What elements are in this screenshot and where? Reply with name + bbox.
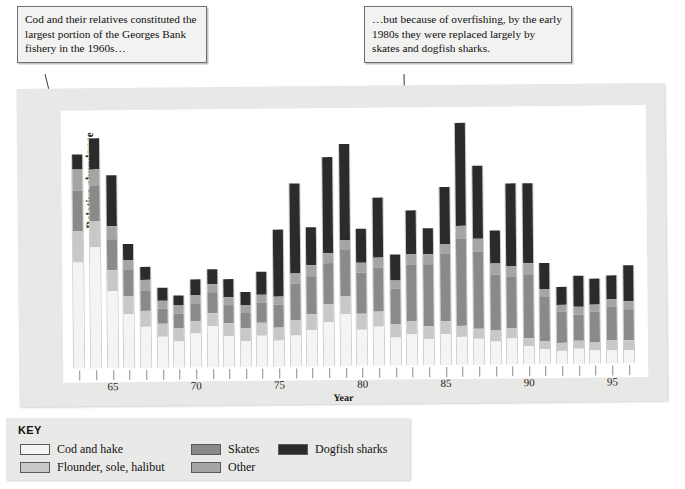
x-tick-75 <box>279 369 280 379</box>
legend-item-flounder-sole-halibut: Flounder, sole, halibut <box>20 460 165 475</box>
bar-segment-dogfish-sharks <box>106 175 116 227</box>
bar-year-93 <box>572 276 585 364</box>
bar-segment-skates <box>73 191 83 232</box>
bar-year-84 <box>422 228 435 365</box>
bar-segment-dogfish-sharks <box>89 139 99 170</box>
bar-segment-cod-and-hake <box>540 349 550 365</box>
x-tick-63 <box>80 371 81 381</box>
bar-segment-cod-and-hake <box>340 314 350 366</box>
bar-segment-dogfish-sharks <box>455 122 466 225</box>
legend-key-box: KEY Cod and hake Flounder, sole, halibut… <box>6 418 410 480</box>
bar-year-78 <box>321 157 335 366</box>
bar-segment-cod-and-hake <box>174 342 184 368</box>
bar-segment-dogfish-sharks <box>606 276 616 299</box>
x-tick-66 <box>129 370 130 380</box>
bar-segment-cod-and-hake <box>574 348 584 364</box>
bar-segment-other <box>623 301 633 309</box>
bar-segment-dogfish-sharks <box>540 263 550 289</box>
bar-segment-flounder-sole-halibut <box>490 331 500 341</box>
bar-segment-flounder-sole-halibut <box>174 329 184 342</box>
legend-item-cod-and-hake: Cod and hake <box>20 442 123 457</box>
bar-segment-flounder-sole-halibut <box>191 321 201 334</box>
callout-right-text: …but because of overfishing, by the earl… <box>372 13 562 54</box>
bar-year-89 <box>505 184 519 365</box>
bar-segment-dogfish-sharks <box>157 288 167 301</box>
bar-segment-other <box>174 306 184 314</box>
bar-segment-dogfish-sharks <box>573 276 583 307</box>
bar-segment-flounder-sole-halibut <box>241 328 251 341</box>
bar-segment-flounder-sole-halibut <box>507 328 517 338</box>
bar-segment-cod-and-hake <box>374 327 384 366</box>
bar-segment-other <box>224 297 234 305</box>
bar-segment-dogfish-sharks <box>522 184 533 264</box>
bar-segment-dogfish-sharks <box>590 278 600 304</box>
bar-segment-skates <box>506 277 516 329</box>
bar-segment-other <box>207 285 217 293</box>
bar-segment-dogfish-sharks <box>240 292 250 305</box>
bar-segment-cod-and-hake <box>207 326 217 367</box>
bar-segment-dogfish-sharks <box>273 230 284 297</box>
x-tick-label-90: 90 <box>524 376 535 388</box>
x-tick-label-65: 65 <box>107 380 118 392</box>
x-tick-95 <box>612 365 613 375</box>
bar-segment-skates <box>274 305 284 328</box>
bar-segment-cod-and-hake <box>141 327 151 368</box>
bar-segment-flounder-sole-halibut <box>590 343 600 351</box>
bar-segment-cod-and-hake <box>440 334 450 365</box>
bar-segment-dogfish-sharks <box>207 269 217 285</box>
bar-segment-cod-and-hake <box>257 336 267 367</box>
bar-segment-dogfish-sharks <box>123 244 133 260</box>
bar-segment-skates <box>540 297 550 341</box>
bar-segment-flounder-sole-halibut <box>624 340 634 350</box>
x-tick-80 <box>362 368 363 378</box>
bar-segment-cod-and-hake <box>274 341 284 367</box>
bar-segment-dogfish-sharks <box>223 279 233 297</box>
legend-swatch-skates <box>191 444 221 455</box>
bar-year-68 <box>156 288 169 368</box>
bar-chart-plot-area <box>69 105 637 368</box>
bar-segment-flounder-sole-halibut <box>324 304 334 322</box>
callout-left: Cod and their relatives constituted the … <box>17 6 207 63</box>
legend-title: KEY <box>18 424 42 436</box>
bar-segment-other <box>573 307 583 315</box>
bar-year-96 <box>622 265 635 363</box>
bar-segment-skates <box>607 307 617 341</box>
bar-segment-flounder-sole-halibut <box>90 221 100 247</box>
legend-item-dogfish-sharks: Dogfish sharks <box>278 442 387 457</box>
bar-segment-cod-and-hake <box>357 330 367 366</box>
bar-year-70 <box>189 280 202 368</box>
bar-segment-dogfish-sharks <box>390 255 400 281</box>
bar-segment-cod-and-hake <box>157 337 167 368</box>
bar-segment-flounder-sole-halibut <box>557 343 567 351</box>
bar-segment-cod-and-hake <box>407 334 417 365</box>
bar-segment-skates <box>123 270 133 296</box>
bar-segment-cod-and-hake <box>457 336 467 364</box>
bar-year-95 <box>605 276 618 364</box>
bar-segment-flounder-sole-halibut <box>457 326 467 336</box>
bar-segment-skates <box>373 268 383 312</box>
bar-segment-dogfish-sharks <box>140 267 150 280</box>
bar-segment-other <box>323 253 333 263</box>
bar-segment-skates <box>523 274 534 339</box>
bar-segment-other <box>506 266 516 276</box>
bar-year-63 <box>71 154 85 368</box>
bar-segment-other <box>523 264 533 274</box>
bar-segment-flounder-sole-halibut <box>274 328 284 341</box>
bar-segment-skates <box>357 273 367 314</box>
legend-label-dogfish-sharks: Dogfish sharks <box>315 442 387 457</box>
x-tick-label-70: 70 <box>191 379 202 391</box>
bar-segment-other <box>123 260 133 270</box>
bar-segment-flounder-sole-halibut <box>390 324 400 337</box>
x-tick-92 <box>562 366 563 376</box>
bar-year-86 <box>454 122 468 365</box>
bar-year-87 <box>471 166 485 365</box>
bar-segment-cod-and-hake <box>507 339 517 365</box>
x-tick-90 <box>529 366 530 376</box>
bar-segment-flounder-sole-halibut <box>424 326 434 339</box>
x-tick-96 <box>629 365 630 375</box>
bar-year-75 <box>272 230 285 367</box>
bar-segment-dogfish-sharks <box>322 157 333 253</box>
bar-segment-skates <box>406 265 417 322</box>
bar-segment-dogfish-sharks <box>257 271 267 294</box>
callout-left-text: Cod and their relatives constituted the … <box>25 13 197 54</box>
